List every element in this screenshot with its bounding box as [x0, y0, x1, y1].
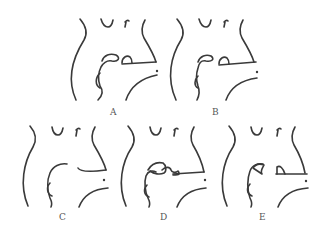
lower-curve	[177, 188, 206, 207]
panel-d: D	[121, 126, 206, 222]
panel-label-c: C	[59, 212, 66, 222]
tangled-leaflets	[148, 163, 179, 175]
notch-v	[101, 19, 113, 27]
right-outer-wall	[191, 127, 204, 172]
panel-e: E	[222, 126, 308, 222]
diagram-canvas: A B C D	[0, 0, 322, 236]
upper-shelf	[219, 62, 256, 65]
left-outer-wall	[23, 126, 35, 206]
septum-loop-a	[98, 54, 119, 100]
panel-label-a: A	[109, 107, 117, 117]
right-outer-wall	[292, 127, 305, 173]
notch-v	[251, 127, 262, 135]
left-outer-wall	[222, 126, 235, 206]
septum-arc-c	[48, 164, 67, 207]
septum-bulge-d	[145, 185, 149, 197]
upper-shelf	[122, 62, 156, 64]
panel-a: A	[71, 19, 158, 117]
left-outer-wall	[121, 126, 134, 206]
marker-dot	[305, 180, 307, 182]
marker-dot	[156, 70, 158, 72]
right-outer-wall	[92, 127, 106, 170]
lower-curve	[278, 188, 308, 207]
panel-label-d: D	[160, 212, 167, 222]
right-outer-wall	[240, 20, 254, 62]
left-outer-wall	[71, 19, 86, 100]
valve-flap-b	[219, 57, 229, 64]
stub-flap-e	[277, 166, 285, 174]
notch-v	[52, 127, 63, 135]
septum-arc-d	[145, 171, 156, 207]
panel-b: B	[171, 19, 259, 117]
panel-label-b: B	[212, 107, 219, 117]
notch-v	[199, 19, 211, 27]
anatomical-diagram: A B C D	[0, 0, 322, 236]
upper-shelf	[78, 168, 106, 171]
septum-loop-b	[197, 55, 213, 100]
lower-curve	[226, 78, 257, 100]
notch-hook	[277, 128, 281, 136]
right-outer-wall	[142, 20, 156, 62]
cut-leaflet-e	[253, 164, 264, 174]
marker-dot	[103, 179, 105, 181]
notch-hook	[125, 20, 129, 27]
marker-dot	[256, 71, 258, 73]
left-outer-wall	[171, 19, 184, 100]
marker-dot	[204, 179, 206, 181]
valve-flap-a	[122, 56, 132, 63]
lower-curve	[79, 188, 108, 207]
notch-hook	[174, 128, 178, 136]
notch-v	[150, 127, 161, 135]
panel-c: C	[23, 126, 108, 222]
notch-hook	[224, 20, 228, 27]
panel-label-e: E	[259, 212, 266, 222]
lower-curve	[126, 75, 157, 100]
notch-hook	[76, 128, 80, 136]
